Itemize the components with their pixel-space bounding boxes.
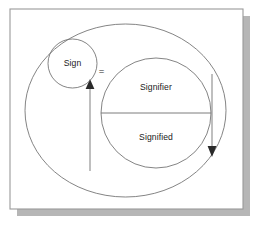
signified-label: Signified bbox=[139, 132, 173, 142]
diagram-canvas: Sign = Signifier Signified bbox=[0, 0, 262, 229]
semiotic-sign-diagram: Sign = Signifier Signified bbox=[0, 0, 262, 229]
panel-frame bbox=[10, 9, 243, 209]
signifier-label: Signifier bbox=[140, 82, 172, 92]
equals-sign-label: = bbox=[99, 65, 105, 76]
sign-label: Sign bbox=[64, 58, 82, 68]
